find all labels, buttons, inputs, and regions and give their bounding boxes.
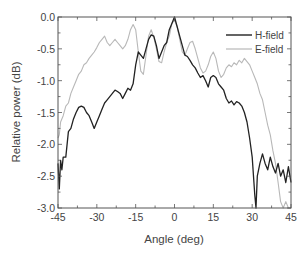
y-tick-label: 0.0	[40, 11, 55, 23]
x-tick-labels: -45-30-150153045	[50, 211, 297, 223]
chart: 0.0-0.5-1.0-1.5-2.0-2.5-3.0 -45-30-15015…	[0, 0, 308, 256]
x-axis-label: Angle (deg)	[144, 233, 204, 245]
x-tick-label: 45	[285, 211, 297, 223]
y-axis-label: Relative power (dB)	[10, 61, 22, 162]
y-tick-label: -1.0	[37, 75, 55, 87]
x-tick-label: -45	[50, 211, 65, 223]
x-tick-label: -15	[128, 211, 143, 223]
y-tick-label: -1.5	[37, 107, 55, 119]
x-tick-label: 30	[246, 211, 258, 223]
y-tick-label: -2.0	[37, 138, 55, 150]
y-tick-label: -0.5	[37, 43, 55, 55]
x-tick-label: -30	[89, 211, 104, 223]
legend: H-field E-field	[226, 30, 284, 55]
y-tick-labels: 0.0-0.5-1.0-1.5-2.0-2.5-3.0	[37, 11, 55, 214]
y-tick-label: -2.5	[37, 170, 55, 182]
x-tick-label: 15	[207, 211, 219, 223]
legend-label-h-field: H-field	[255, 30, 284, 41]
x-tick-label: 0	[172, 211, 178, 223]
legend-label-e-field: E-field	[255, 44, 283, 55]
